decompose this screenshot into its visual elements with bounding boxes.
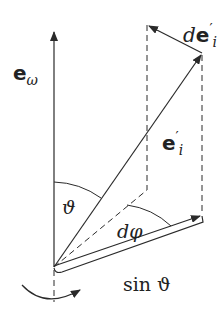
rotation-arc [22,285,80,299]
sin-theta-label: sin ϑ [123,275,171,294]
e-omega-label: eω [13,63,38,87]
dphi-label: dφ [117,222,142,241]
de-i-prime-label: de′i [183,22,217,49]
rotation-vector-diagram: eω e′i de′i ϑ dφ sin ϑ [0,0,223,316]
e-i-prime-label: e′i [162,130,183,157]
theta-label: ϑ [62,198,76,217]
